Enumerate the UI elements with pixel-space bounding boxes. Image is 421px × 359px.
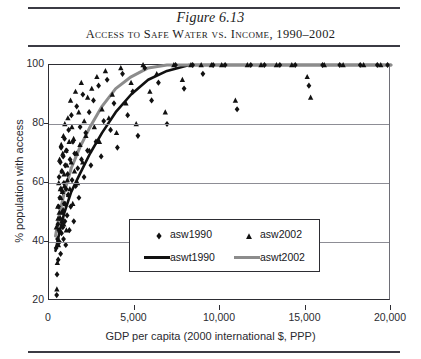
x-tick-label-10000: 10,000: [189, 311, 249, 323]
data-point: [233, 98, 238, 103]
data-point: [80, 91, 85, 97]
legend-item-aswt1990[interactable]: aswt1990: [144, 246, 215, 268]
data-point: [182, 86, 187, 92]
data-point: [308, 95, 313, 100]
legend-label-aswt1990: aswt1990: [170, 251, 215, 263]
data-point: [200, 71, 205, 77]
legend-label-aswt2002: aswt2002: [260, 251, 305, 263]
triangle-marker-icon: [234, 228, 260, 240]
gridline-y-80: [49, 124, 389, 125]
data-point: [112, 100, 117, 106]
data-point: [59, 142, 64, 147]
data-point: [156, 80, 161, 86]
data-point: [54, 292, 59, 298]
data-point: [128, 80, 133, 85]
data-point: [87, 109, 92, 115]
legend-label-asw2002: asw2002: [260, 228, 302, 240]
x-tick-mark-15000: [305, 305, 306, 310]
data-point: [85, 95, 90, 100]
x-tick-label-20000: 20,000: [360, 311, 420, 323]
rule-bottom: [28, 351, 400, 353]
legend-row-lines: aswt1990 aswt2002: [130, 246, 321, 268]
data-point: [96, 83, 101, 89]
data-point: [149, 97, 154, 103]
y-tick-label-100: 100: [22, 57, 44, 69]
data-point: [54, 286, 59, 291]
y-tick-label-40: 40: [22, 234, 44, 246]
data-point: [82, 118, 87, 123]
data-point: [163, 109, 168, 114]
black-line-icon: [144, 251, 170, 263]
legend-label-asw1990: asw1990: [170, 228, 212, 240]
data-point: [147, 89, 152, 94]
data-point: [69, 112, 74, 118]
data-point: [307, 83, 312, 89]
trendline-aswt2002: [55, 65, 391, 236]
x-tick-label-15000: 15,000: [275, 311, 335, 323]
data-point: [105, 77, 110, 83]
data-point: [103, 68, 108, 73]
x-tick-mark-10000: [219, 305, 220, 310]
data-point: [140, 62, 145, 67]
data-point: [108, 127, 113, 133]
data-point: [79, 80, 84, 85]
data-point: [77, 195, 82, 201]
gray-line-icon: [234, 251, 260, 263]
data-point: [68, 98, 73, 103]
data-point: [76, 109, 81, 114]
data-point: [57, 174, 62, 180]
x-axis-title: GDP per capita (2000 international $, PP…: [0, 330, 421, 342]
data-point: [74, 103, 79, 109]
figure-container: Figure 6.13 Access to Safe Water vs. Inc…: [0, 0, 421, 359]
x-tick-mark-5000: [134, 305, 135, 310]
data-point: [91, 97, 96, 103]
data-point: [180, 77, 185, 82]
legend-item-asw1990[interactable]: asw1990: [144, 223, 212, 245]
data-point: [94, 74, 99, 79]
y-tick-label-20: 20: [22, 293, 44, 305]
rule-middle: [28, 45, 400, 47]
figure-number: Figure 6.13: [0, 9, 421, 26]
data-point: [55, 271, 60, 277]
chart-legend: asw1990 asw2002 aswt1990 aswt2002: [129, 219, 320, 272]
data-point: [99, 153, 104, 159]
x-tick-label-0: 0: [18, 311, 78, 323]
y-tick-label-80: 80: [22, 116, 44, 128]
data-point: [73, 89, 78, 94]
x-tick-label-5000: 5,000: [104, 311, 164, 323]
legend-item-asw2002[interactable]: asw2002: [234, 223, 302, 245]
x-tick-mark-20000: [390, 305, 391, 310]
data-point: [89, 86, 94, 91]
x-axis-tick-labels: 05,00010,00015,00020,000: [0, 305, 421, 321]
data-point: [114, 130, 119, 135]
data-point: [136, 133, 141, 139]
data-point: [75, 165, 80, 171]
data-point: [305, 74, 310, 79]
data-point: [115, 145, 120, 151]
data-point: [118, 65, 123, 70]
data-point: [70, 201, 75, 206]
figure-caption: Access to Safe Water vs. Income, 1990–20…: [0, 26, 421, 43]
data-point: [385, 62, 390, 68]
gridline-y-60: [49, 183, 389, 184]
data-point: [88, 162, 93, 168]
data-point: [61, 133, 66, 138]
y-tick-label-60: 60: [22, 175, 44, 187]
diamond-marker-icon: [144, 228, 170, 240]
y-axis-title: % population with access: [13, 71, 25, 291]
legend-item-aswt2002[interactable]: aswt2002: [234, 246, 305, 268]
data-point: [71, 136, 76, 141]
figure-title-block: Figure 6.13 Access to Safe Water vs. Inc…: [0, 9, 421, 43]
data-point: [82, 174, 87, 180]
data-point: [125, 112, 130, 118]
legend-row-markers: asw1990 asw2002: [130, 223, 321, 245]
data-point: [120, 71, 125, 77]
data-point: [235, 106, 240, 112]
data-point: [58, 251, 63, 257]
data-point: [71, 218, 76, 224]
